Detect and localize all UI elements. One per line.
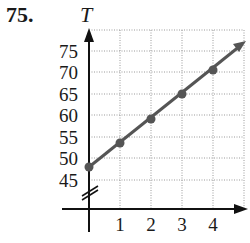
x-axis-arrow-icon: [234, 204, 248, 214]
grid: [89, 30, 244, 209]
data-series-T: [85, 41, 247, 172]
chart-plot: [0, 0, 250, 243]
